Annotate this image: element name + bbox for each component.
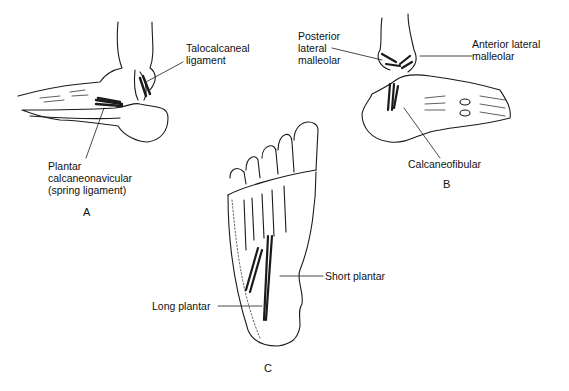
label-talocalcaneal-ligament: Talocalcaneal ligament [186,42,250,66]
label-long-plantar: Long plantar [152,300,210,312]
panel-label-a: A [83,206,90,218]
panel-label-b: B [443,178,450,190]
label-line: Short plantar [325,270,385,282]
label-line: malleolar [472,50,540,62]
label-line: (spring ligament) [48,184,132,196]
label-line: Plantar [48,160,132,172]
label-posterior-lateral-malleolar: Posterior lateral malleolar [298,30,341,66]
panel-a-drawing [18,22,183,158]
label-line: malleolar [298,54,341,66]
panel-c-drawing [218,122,323,346]
panel-b-drawing [332,14,510,158]
label-line: Calcaneofibular [408,158,481,170]
label-line: lateral [298,42,341,54]
label-anterior-lateral-malleolar: Anterior lateral malleolar [472,38,540,62]
label-line: Anterior lateral [472,38,540,50]
label-calcaneofibular: Calcaneofibular [408,158,481,170]
label-plantar-calcaneonavicular: Plantar calcaneonavicular (spring ligame… [48,160,132,196]
label-line: Talocalcaneal [186,42,250,54]
label-short-plantar: Short plantar [325,270,385,282]
label-line: Long plantar [152,300,210,312]
label-line: Posterior [298,30,341,42]
label-line: calcaneonavicular [48,172,132,184]
panel-label-c: C [264,362,272,374]
label-line: ligament [186,54,250,66]
